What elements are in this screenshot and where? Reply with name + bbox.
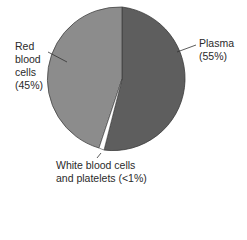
label-white-blood-cells: White blood cells and platelets (<1%) [56,159,147,185]
rbc-line3: cells [15,66,43,79]
label-red-blood-cells: Red blood cells (45%) [15,40,43,92]
plasma-leader-line [177,45,196,52]
wbc-line1: White blood cells [56,159,147,172]
rbc-percent: (45%) [15,79,43,92]
rbc-line1: Red [15,40,43,53]
wbc-leader-line [97,153,101,158]
label-plasma: Plasma (55%) [199,37,234,63]
plasma-percent: (55%) [199,50,234,63]
plasma-name: Plasma [199,37,234,50]
rbc-line2: blood [15,53,43,66]
wbc-line2: and platelets (<1%) [56,172,147,185]
